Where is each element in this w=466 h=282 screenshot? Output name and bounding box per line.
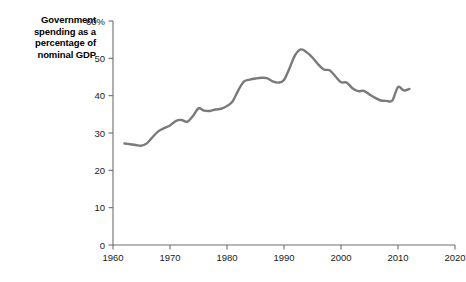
x-axis-tick-label: 2020 xyxy=(444,252,465,263)
x-axis-tick-label: 2010 xyxy=(387,252,408,263)
series-line-0 xyxy=(124,49,409,145)
x-axis-tick-label: 2000 xyxy=(330,252,351,263)
x-axis-tick-label: 1980 xyxy=(216,252,237,263)
x-axis-tick-label: 1990 xyxy=(273,252,294,263)
y-axis-tick-label: 20 xyxy=(94,165,105,176)
x-axis-tick-label: 1970 xyxy=(159,252,180,263)
y-axis-tick-label: 50 xyxy=(94,53,105,64)
x-axis-tick-label: 1960 xyxy=(102,252,123,263)
line-chart-plot: 0102030405060% 1960197019801990200020102… xyxy=(0,0,466,282)
y-axis-tick-label: 60% xyxy=(86,16,106,27)
y-axis-tick-label: 0 xyxy=(100,240,105,251)
x-axis: 1960197019801990200020102020 xyxy=(102,245,465,263)
data-series-group xyxy=(124,49,409,145)
chart-container: Government spending as a percentage of n… xyxy=(0,0,466,282)
y-axis-tick-label: 10 xyxy=(94,202,105,213)
y-axis-tick-label: 40 xyxy=(94,90,105,101)
y-axis: 0102030405060% xyxy=(86,16,113,251)
y-axis-tick-label: 30 xyxy=(94,128,105,139)
